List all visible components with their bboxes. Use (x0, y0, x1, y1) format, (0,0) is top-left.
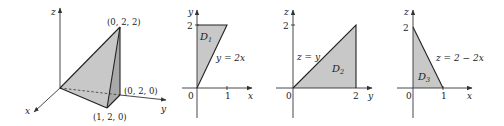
origin-label: 0 (188, 91, 194, 101)
curve-label: y = 2x (215, 53, 245, 63)
x-axis (34, 88, 60, 112)
h-tick-label: 2 (353, 91, 359, 101)
panel-D1: y 2 0 1 x D1 y = 2x (182, 7, 253, 118)
v-tick-label: 2 (403, 23, 409, 33)
vertex-label-apex: (0, 2, 2) (107, 17, 141, 27)
z-axis-label: z (50, 7, 56, 17)
v-tick-label: 2 (283, 21, 289, 31)
curve-label: z = y (296, 52, 321, 62)
panel-3d-solid: z y x (0, 2, 2) (0, 2, 0) (1, 2, 0) (25, 7, 167, 122)
v-axis-label: z (283, 7, 289, 17)
v-axis-label: z (403, 7, 409, 17)
figure: z y x (0, 2, 2) (0, 2, 0) (1, 2, 0) y 2 … (0, 0, 504, 126)
x-axis-label: x (25, 106, 30, 116)
v-axis-label: y (187, 7, 194, 17)
vertex-label-120: (1, 2, 0) (93, 112, 127, 122)
h-tick-label: 1 (441, 91, 447, 101)
curve-label: z = 2 − 2x (435, 53, 484, 63)
panel-D3: z 2 0 1 x z = 2 − 2x D3 (397, 7, 484, 118)
v-tick-label: 2 (187, 21, 193, 31)
h-tick-label: 1 (225, 91, 231, 101)
h-axis-label: y (367, 91, 374, 101)
origin-label: 0 (406, 91, 412, 101)
origin-label: 0 (286, 91, 292, 101)
panel-D2: z 2 0 2 y z = y D2 (276, 7, 374, 118)
y-axis-label: y (160, 104, 167, 114)
h-axis-label: x (248, 91, 253, 101)
h-axis-label: x (467, 91, 472, 101)
vertex-label-020: (0, 2, 0) (124, 86, 158, 96)
